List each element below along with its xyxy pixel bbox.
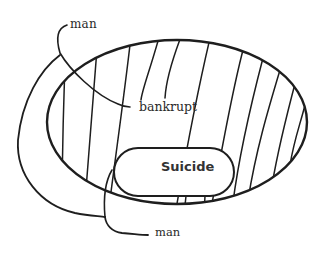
diagram-canvas: man bankrupt Suicide man [0, 0, 323, 264]
label-man-bottom: man [155, 227, 180, 239]
man-band-outer [18, 55, 105, 217]
label-suicide: Suicide [161, 160, 214, 173]
label-man-top: man [70, 18, 97, 30]
label-bankrupt: bankrupt [139, 101, 197, 114]
man-band-inner [105, 217, 148, 235]
